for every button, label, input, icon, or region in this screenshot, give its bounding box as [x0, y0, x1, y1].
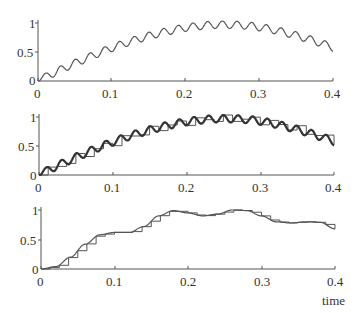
- xtick-01-bottom: 0.1: [106, 274, 122, 289]
- ytick-05-middle: 0.5: [18, 139, 34, 154]
- xtick-02-top: 0.2: [176, 86, 192, 101]
- ytick-05-bottom: 0.5: [20, 233, 36, 248]
- staircase-bottom: [41, 210, 335, 269]
- staircase-middle: [39, 115, 334, 175]
- signal-line-top: [38, 21, 333, 81]
- ytick-1-middle: 1: [30, 110, 37, 125]
- xtick-01-middle: 0.1: [104, 180, 120, 195]
- xtick-03-middle: 0.3: [252, 180, 268, 195]
- smoothed-line-bottom: [41, 210, 335, 269]
- panel-bottom: 1 0.5 0 0 0.1 0.2 0.3 0.4 time: [20, 203, 345, 308]
- panel-top: 1 0.5 0 0 0.1 0.2 0.3 0.4: [17, 16, 341, 101]
- xtick-03-top: 0.3: [250, 86, 266, 101]
- xtick-0-bottom: 0: [37, 274, 44, 289]
- xtick-0-top: 0: [34, 86, 41, 101]
- xtick-04-middle: 0.4: [325, 180, 342, 195]
- x-axis-bottom: [38, 210, 335, 269]
- xtick-02-middle: 0.2: [178, 180, 194, 195]
- xtick-03-bottom: 0.3: [254, 274, 270, 289]
- panel-middle: 1 0.5 0 0 0.1 0.2 0.3 0.4: [18, 110, 342, 195]
- x-axis-label: time: [322, 293, 345, 308]
- xtick-04-bottom: 0.4: [327, 274, 344, 289]
- chart-figure: 1 0.5 0 0 0.1 0.2 0.3 0.4 1 0.5 0 0 0.1 …: [0, 0, 361, 313]
- ytick-05-top: 0.5: [17, 45, 33, 60]
- xtick-01-top: 0.1: [102, 86, 118, 101]
- xtick-02-bottom: 0.2: [180, 274, 196, 289]
- x-axis-top: [35, 23, 333, 81]
- ytick-1-top: 1: [29, 16, 36, 31]
- xtick-04-top: 0.4: [324, 86, 341, 101]
- ytick-1-bottom: 1: [32, 203, 39, 218]
- xtick-0-middle: 0: [35, 180, 42, 195]
